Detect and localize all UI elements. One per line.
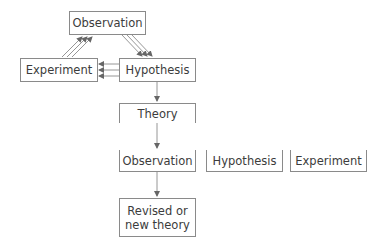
observation-to-hypothesis-arrows <box>122 35 152 56</box>
experiment-to-observation-arrows <box>62 37 92 57</box>
test-observation-label: Observation <box>122 154 192 168</box>
revised-line1: Revised or <box>127 204 187 218</box>
theory-box: Theory <box>119 103 196 123</box>
test-hypothesis-box: Hypothesis <box>206 150 283 172</box>
theory-label: Theory <box>138 107 178 123</box>
revised-line2: new theory <box>125 218 190 232</box>
hypothesis-label: Hypothesis <box>126 63 190 77</box>
test-experiment-label: Experiment <box>295 154 361 168</box>
observation-box: Observation <box>69 11 146 35</box>
hypothesis-to-experiment-arrows <box>99 64 119 76</box>
experiment-box: Experiment <box>20 58 98 82</box>
test-observation-box: Observation <box>119 150 196 172</box>
hypothesis-box: Hypothesis <box>119 58 196 82</box>
test-hypothesis-label: Hypothesis <box>213 154 277 168</box>
test-experiment-box: Experiment <box>290 150 367 172</box>
observation-label: Observation <box>72 16 142 30</box>
experiment-label: Experiment <box>26 63 92 77</box>
revised-theory-box: Revised or new theory <box>119 198 196 237</box>
